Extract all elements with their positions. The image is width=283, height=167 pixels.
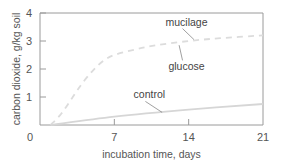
- y-axis-title: carbon dioxide, g/kg soil: [10, 13, 22, 126]
- series-lines: [51, 35, 263, 125]
- x-tick-label: 14: [183, 131, 195, 143]
- series-annotations: mucilageglucosecontrol: [134, 16, 208, 113]
- x-tick-label: 21: [257, 131, 269, 143]
- glucose-label: glucose: [168, 60, 204, 72]
- plot-frame: [40, 13, 263, 125]
- line-chart: 1234 071421 mucilageglucosecontrol incub…: [0, 0, 283, 167]
- control-label: control: [134, 88, 166, 100]
- mucilage-label: mucilage: [166, 16, 208, 28]
- x-tick-label: 0: [27, 131, 33, 143]
- x-axis-title: incubation time, days: [102, 148, 201, 160]
- x-tick-label: 7: [111, 131, 117, 143]
- y-ticks: 1234: [26, 7, 46, 103]
- mucilage-pointer: [183, 29, 194, 40]
- y-tick-label: 2: [26, 63, 32, 75]
- y-tick-label: 1: [26, 91, 32, 103]
- control-pointer: [145, 101, 162, 112]
- y-tick-label: 3: [26, 35, 32, 47]
- glucose-pointer: [179, 45, 182, 60]
- y-tick-label: 4: [26, 7, 32, 19]
- control-line: [51, 104, 263, 125]
